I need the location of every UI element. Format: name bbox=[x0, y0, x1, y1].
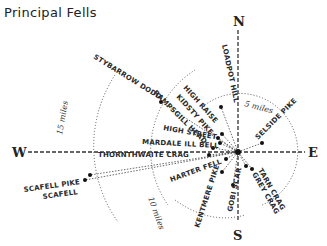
ring-15-miles bbox=[94, 75, 118, 222]
compass-south: S bbox=[233, 228, 242, 243]
label-thornthwaite-crag: THORNTHWAITE CRAG bbox=[98, 151, 189, 159]
compass-north: N bbox=[233, 14, 245, 29]
compass-east: E bbox=[308, 145, 318, 160]
ring-label-15: 15 miles bbox=[55, 100, 70, 135]
fell-compass-diagram: N S E W 5 miles 10 miles 15 miles LOADPO… bbox=[0, 0, 327, 246]
label-gobi-scar: GOBI SCAR bbox=[226, 166, 243, 212]
compass-west: W bbox=[11, 145, 27, 160]
ring-label-5: 5 miles bbox=[243, 99, 274, 115]
ring-label-10: 10 miles bbox=[146, 196, 166, 231]
